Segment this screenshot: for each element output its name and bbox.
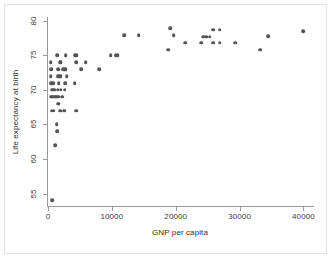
data-point — [212, 41, 216, 45]
data-point — [116, 54, 120, 58]
data-point — [258, 48, 262, 52]
y-axis-title-wrap: Life expectancy at birth — [8, 18, 22, 206]
data-point — [49, 60, 53, 64]
data-point — [122, 33, 126, 37]
data-point — [55, 123, 59, 127]
data-point — [57, 102, 61, 106]
y-tick-label-text: 60 — [29, 154, 38, 163]
x-tick-mark — [240, 207, 241, 211]
data-point — [183, 41, 187, 45]
data-point — [172, 33, 176, 37]
x-tick-mark — [176, 207, 177, 211]
x-axis-line — [47, 206, 314, 207]
x-tick-mark — [303, 207, 304, 211]
data-point — [75, 54, 79, 58]
data-point — [51, 81, 55, 85]
data-point — [74, 60, 78, 64]
x-tick-label: 20000 — [164, 212, 187, 221]
y-tick-label: 60 — [26, 152, 40, 166]
data-point — [63, 88, 67, 92]
data-point — [55, 130, 59, 134]
data-point — [56, 67, 60, 71]
data-point — [84, 60, 88, 64]
data-point — [64, 67, 68, 71]
data-point — [52, 109, 56, 113]
x-axis-title: GNP per capita — [152, 228, 208, 237]
data-point — [267, 34, 271, 38]
data-point — [97, 67, 101, 71]
data-point — [62, 109, 66, 113]
data-point — [208, 35, 212, 39]
y-tick-label-text: 75 — [29, 51, 38, 60]
scatter-plot-figure: 556065707580 010000200003000040000 Life … — [0, 0, 331, 258]
data-point — [137, 33, 141, 37]
data-point — [199, 41, 203, 45]
x-tick-mark — [112, 207, 113, 211]
y-tick-label-text: 55 — [29, 189, 38, 198]
y-tick-label: 70 — [26, 83, 40, 97]
data-point — [59, 60, 63, 64]
x-tick-label: 40000 — [292, 212, 315, 221]
data-point — [74, 109, 78, 113]
data-point — [49, 74, 53, 78]
x-tick-label: 30000 — [228, 212, 251, 221]
plot-area — [48, 18, 313, 206]
y-tick-label: 80 — [26, 14, 40, 28]
data-point — [79, 67, 83, 71]
x-tick-label: 0 — [46, 212, 51, 221]
x-tick-mark — [48, 207, 49, 211]
data-point — [109, 54, 113, 58]
data-point — [218, 28, 222, 32]
data-point — [212, 28, 216, 32]
data-point — [51, 199, 55, 203]
y-tick-label-text: 80 — [29, 16, 38, 25]
data-point — [168, 27, 172, 31]
x-tick-label: 10000 — [100, 212, 123, 221]
data-point — [218, 41, 222, 45]
data-point — [53, 143, 57, 147]
data-point — [65, 74, 69, 78]
y-tick-label-text: 70 — [29, 85, 38, 94]
y-tick-label: 55 — [26, 187, 40, 201]
data-point — [49, 67, 53, 71]
y-axis-title: Life expectancy at birth — [11, 70, 20, 155]
y-tick-label: 65 — [26, 117, 40, 131]
data-point — [63, 81, 67, 85]
data-point — [60, 95, 64, 99]
data-point — [166, 48, 170, 52]
data-point — [64, 54, 68, 58]
y-tick-label-text: 65 — [29, 120, 38, 129]
y-tick-label: 75 — [26, 48, 40, 62]
data-point — [55, 54, 59, 58]
data-point — [233, 41, 237, 45]
data-point — [59, 74, 63, 78]
data-point — [73, 81, 77, 85]
data-point — [57, 81, 61, 85]
data-point — [302, 29, 306, 33]
